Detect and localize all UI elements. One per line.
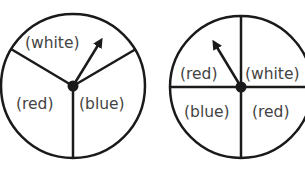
spinner-1-label-blue: (blue) (79, 95, 125, 113)
spinners-diagram: (white) (red) (blue) (red) (white) (blue… (0, 0, 305, 170)
spinner-2-label-red-top: (red) (180, 65, 218, 83)
spinner-2-label-white: (white) (245, 65, 300, 83)
spinner-2: (red) (white) (blue) (red) (170, 16, 305, 158)
spinner-2-label-blue: (blue) (184, 103, 230, 121)
spinner-2-arrow-icon (215, 44, 241, 87)
spinner-1-divider-right (73, 49, 136, 86)
spinner-1-label-red: (red) (16, 95, 54, 113)
spinner-2-label-red-bottom: (red) (252, 103, 290, 121)
spinner-1: (white) (red) (blue) (1, 14, 145, 158)
spinner-1-divider-left (11, 49, 73, 86)
spinner-1-pivot (68, 81, 79, 92)
spinner-1-label-white: (white) (25, 34, 80, 52)
spinner-2-pivot (236, 82, 247, 93)
